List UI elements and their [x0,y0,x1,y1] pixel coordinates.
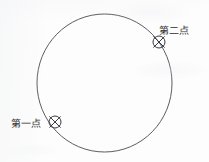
diagram-canvas: 第一点 第二点 [0,0,209,162]
second-point-marker-group[interactable] [153,36,165,48]
circle-diagram [0,0,209,162]
first-point-label: 第一点 [11,119,41,130]
first-point-marker-group[interactable] [49,116,61,128]
circle-shape [37,14,172,152]
second-point-label: 第二点 [159,26,189,37]
